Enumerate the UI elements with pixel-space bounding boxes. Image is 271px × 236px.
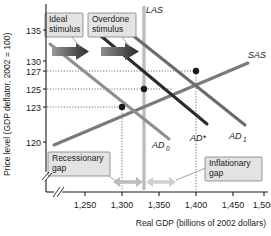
y-tick-label-127: 127	[26, 67, 41, 77]
economics-ad-as-chart: Ideal stimulus Overdone stimulus Recessi…	[0, 0, 271, 236]
overdone-stimulus-line2: stimulus	[92, 24, 123, 34]
callout-ideal-stimulus: Ideal stimulus	[45, 13, 83, 37]
recessionary-gap-line1: Recessionary	[52, 153, 104, 163]
x-tick-label-1350: 1,350	[148, 200, 171, 210]
recessionary-gap-line2: gap	[52, 163, 66, 173]
x-tick-label-1250: 1,250	[74, 200, 97, 210]
y-tick-label-130: 130	[26, 57, 41, 67]
overdone-stimulus-line1: Overdone	[92, 14, 130, 24]
ideal-stimulus-line1: Ideal	[49, 14, 68, 24]
callout-recessionary-gap: Recessionary gap	[48, 152, 110, 176]
chart-canvas: Ideal stimulus Overdone stimulus Recessi…	[0, 0, 271, 236]
x-axis-title: Real GDP (billions of 2002 dollars)	[136, 218, 266, 228]
sas-label: SAS	[248, 50, 266, 60]
equilibrium-point-initial	[119, 104, 125, 110]
x-tick-label-1500: 1,500	[253, 200, 271, 210]
x-tick-label-1300: 1,300	[111, 200, 134, 210]
equilibrium-point-full-employment	[141, 86, 147, 92]
equilibrium-point-above-full-employment	[193, 68, 199, 74]
y-tick-label-120: 120	[26, 138, 41, 148]
y-tick-label-125: 125	[26, 85, 41, 95]
inflationary-gap-line2: gap	[209, 168, 223, 178]
x-tick-label-1400: 1,400	[185, 200, 208, 210]
ad-star-label-text: AD*	[189, 133, 207, 143]
y-axis-title: Price level (GDP deflator, 2002 = 100)	[2, 33, 12, 176]
y-tick-label-123: 123	[26, 103, 41, 113]
ad1-label-text: AD	[228, 131, 242, 141]
callout-inflationary-gap: Inflationary gap	[205, 157, 262, 181]
ad1-label-subscript: 1	[243, 136, 247, 143]
las-label: LAS	[146, 5, 163, 15]
x-tick-label-1450: 1,450	[222, 200, 245, 210]
ad0-label-text: AD	[151, 140, 165, 150]
y-tick-label-135: 135	[26, 26, 41, 36]
callout-overdone-stimulus: Overdone stimulus	[88, 13, 136, 37]
inflationary-gap-line1: Inflationary	[209, 158, 251, 168]
ad-star-label: AD*	[189, 133, 207, 143]
ad0-label-subscript: 0	[166, 145, 170, 152]
ideal-stimulus-line2: stimulus	[49, 24, 80, 34]
